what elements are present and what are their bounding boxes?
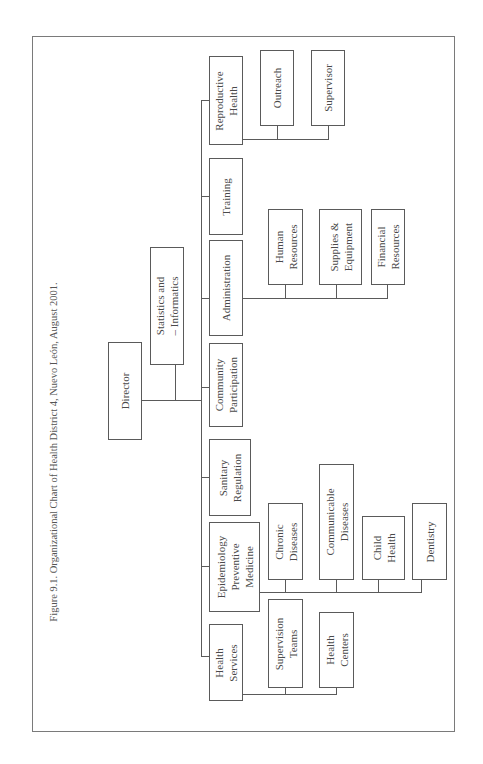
drop-supplies [336,285,337,298]
node-label: Director [118,373,132,410]
drop-health-centers [336,688,337,694]
node-label: Communicable Diseases [323,488,351,555]
node-label: Outreach [270,68,284,108]
epidemiology-children-connector [260,592,422,593]
tick-training [201,196,209,197]
node-human-resources: Human Resources [268,209,303,285]
node-communicable-diseases: Communicable Diseases [319,464,354,580]
node-health-services: Health Services [209,624,243,701]
node-administration: Administration [209,240,243,336]
node-director: Director [108,342,142,440]
node-label: Training [219,178,233,216]
node-supervisor: Supervisor [311,50,345,126]
reproductive-children-connector [243,139,329,140]
director-connector [142,400,201,401]
node-label: Sanitary Regulation [216,453,244,501]
tick-health-services [201,656,209,657]
node-epidemiology: Epidemiology Preventive Medicine [209,522,260,612]
node-child-health: Child Health [362,516,405,580]
node-chronic-diseases: Chronic Diseases [268,503,303,580]
node-label: Human Resources [272,224,300,269]
node-training: Training [209,158,243,235]
drop-human-resources [285,285,286,298]
trunk-line [201,100,202,657]
drop-outreach [277,126,278,139]
node-label: Community Participation [212,357,240,413]
health-services-children-connector [243,694,337,695]
drop-financial [387,285,388,298]
node-health-centers: Health Centers [319,612,354,688]
drop-supervision-teams [285,688,286,694]
node-label: Dentistry [423,521,437,562]
node-label: Child Health [370,533,398,562]
drop-child-health [378,580,379,592]
node-label: Financial Resources [374,224,402,269]
node-supervision-teams: Supervision Teams [268,599,303,688]
node-label: Supplies & Equipment [327,222,355,271]
staff-connector [175,365,176,400]
node-label: Supervisor [321,64,335,112]
node-label: Reproductive Health [212,71,240,130]
administration-children-connector [243,298,388,299]
node-sanitary-regulation: Sanitary Regulation [209,439,251,516]
node-label: Administration [219,255,233,322]
drop-communicable [336,580,337,592]
node-statistics-informatics: Statistics and – Informatics [150,247,184,365]
node-label: Chronic Diseases [272,522,300,561]
tick-community [201,387,209,388]
node-dentistry: Dentistry [412,503,447,580]
node-label: Epidemiology Preventive Medicine [214,536,256,598]
figure-frame [32,36,455,732]
tick-reproductive [201,100,209,101]
node-label: Supervision Teams [272,617,300,670]
figure-caption: Figure 9.1. Organizational Chart of Heal… [48,282,59,621]
node-label: Health Services [212,644,240,681]
node-financial-resources: Financial Resources [371,209,405,285]
drop-supervisor [328,126,329,139]
node-label: Health Centers [323,633,351,667]
tick-sanitary [201,477,209,478]
node-outreach: Outreach [260,50,294,126]
drop-chronic [285,580,286,592]
node-community-participation: Community Participation [209,343,243,427]
node-reproductive-health: Reproductive Health [209,56,243,145]
tick-epidemiology [201,566,209,567]
node-label: Statistics and – Informatics [153,277,181,336]
tick-administration [201,298,209,299]
drop-dentistry [421,580,422,592]
node-supplies-equipment: Supplies & Equipment [319,209,362,285]
